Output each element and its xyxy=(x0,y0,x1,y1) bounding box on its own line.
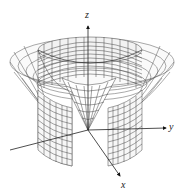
y-axis-label: y xyxy=(169,122,173,132)
x-axis-label: x xyxy=(121,180,125,190)
z-axis-label: z xyxy=(85,10,89,20)
3d-surface-diagram xyxy=(0,0,185,195)
cylinder-front-right xyxy=(108,90,142,166)
